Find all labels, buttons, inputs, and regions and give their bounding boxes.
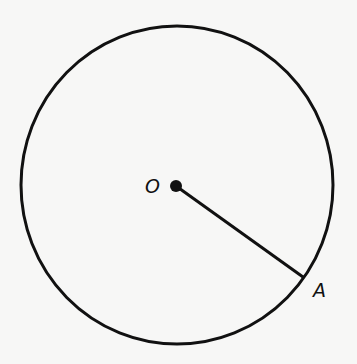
diagram-canvas: O A [0,0,357,364]
circle-diagram: O A [0,0,357,364]
radius-segment-oa [176,186,303,277]
center-point-o [170,180,182,192]
label-o: O [145,175,160,197]
label-a: A [311,279,326,301]
